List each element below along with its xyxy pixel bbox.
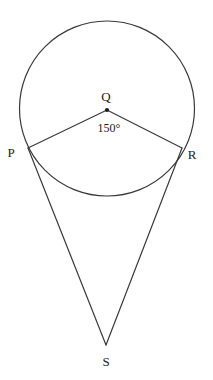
vertex-label-q: Q [101, 89, 111, 104]
geometry-figure: Q P R S 150° [0, 0, 213, 380]
tangent-ps-line [28, 148, 106, 345]
vertex-label-p: P [7, 145, 14, 160]
center-dot [105, 108, 109, 112]
vertex-label-r: R [188, 147, 197, 162]
central-angle-label: 150° [98, 121, 121, 135]
tangent-rs-line [106, 148, 182, 345]
radius-qp-line [28, 110, 107, 148]
geometry-canvas: Q P R S 150° [0, 0, 213, 380]
vertex-label-s: S [102, 354, 109, 369]
